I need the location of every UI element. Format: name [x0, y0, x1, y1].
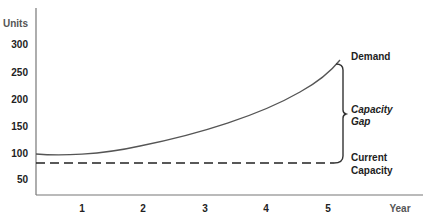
current-capacity-label-line2: Capacity [351, 165, 393, 176]
y-axis-title: Units [3, 18, 28, 29]
y-tick-100: 100 [11, 148, 28, 159]
x-tick-4: 4 [263, 203, 269, 214]
current-capacity-label-line1: Current [351, 152, 388, 163]
x-tick-2: 2 [140, 203, 146, 214]
capacity-gap-brace [334, 64, 346, 163]
x-axis-title: Year [389, 203, 410, 214]
y-tick-50: 50 [17, 174, 29, 185]
capacity-gap-label-line2: Gap [351, 116, 370, 127]
y-tick-150: 150 [11, 121, 28, 132]
x-tick-3: 3 [202, 203, 208, 214]
x-tick-1: 1 [79, 203, 85, 214]
y-tick-250: 250 [11, 67, 28, 78]
x-tick-5: 5 [325, 203, 331, 214]
y-tick-200: 200 [11, 94, 28, 105]
capacity-gap-chart: Units 300 250 200 150 100 50 1 2 3 4 5 Y… [0, 0, 437, 219]
demand-label: Demand [351, 51, 390, 62]
capacity-gap-label-line1: Capacity [351, 104, 393, 115]
y-tick-300: 300 [11, 39, 28, 50]
demand-line [36, 60, 340, 155]
